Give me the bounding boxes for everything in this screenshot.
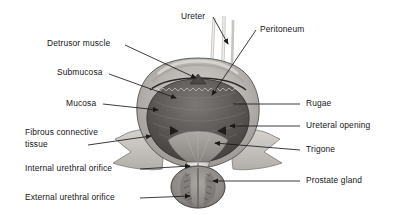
label-external-urethral-orifice: External urethral orifice	[25, 192, 115, 203]
label-fibrous-tissue-line2: tissue	[25, 139, 48, 150]
anatomy-figure: Detrusor muscle Submucosa Mucosa Fibrous…	[0, 0, 396, 215]
label-mucosa: Mucosa	[66, 98, 96, 109]
label-detrusor-muscle: Detrusor muscle	[47, 38, 110, 49]
label-rugae: Rugae	[306, 98, 331, 109]
label-trigone: Trigone	[306, 144, 335, 155]
label-fibrous-tissue-line1: Fibrous connective	[25, 127, 98, 138]
label-ureter: Ureter	[181, 11, 205, 22]
label-ureteral-opening: Ureteral opening	[306, 120, 370, 131]
label-submucosa: Submucosa	[57, 67, 103, 78]
label-peritoneum: Peritoneum	[260, 24, 304, 35]
prostate-gland-mass	[171, 166, 225, 208]
label-prostate-gland: Prostate gland	[306, 175, 362, 186]
label-internal-urethral-orifice: Internal urethral orifice	[25, 163, 112, 174]
